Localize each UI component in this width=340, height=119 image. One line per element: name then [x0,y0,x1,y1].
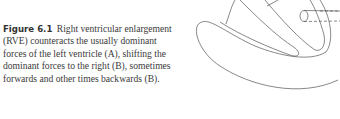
heart-illustration [180,0,340,119]
figure-caption: Figure 6.1 Right ventricular enlargement… [3,23,181,85]
figure-label: Figure 6.1 [3,24,52,34]
